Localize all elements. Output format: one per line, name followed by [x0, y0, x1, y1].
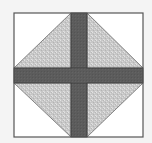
- quilt-block-diagram: [0, 0, 152, 143]
- quilt-block-svg: [0, 0, 152, 143]
- strip-intersection: [71, 68, 86, 82]
